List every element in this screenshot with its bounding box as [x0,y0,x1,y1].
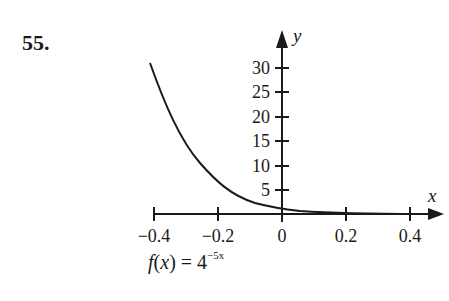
y-tick-label: 30 [252,58,270,78]
y-tick-label: 20 [252,107,270,127]
x-tick-label: 0.4 [399,226,422,246]
y-tick-label: 25 [252,82,270,102]
x-axis-label: x [427,185,437,206]
x-tick-label: 0 [278,226,287,246]
y-tick-label: 10 [252,156,270,176]
function-graph: −0.4 −0.2 0 0.2 0.4 5 10 15 20 25 30 x y [0,0,449,301]
x-tick-label: 0.2 [335,226,358,246]
function-label: f(x) = 4−5x [148,251,224,274]
x-tick-label: −0.4 [138,226,171,246]
function-variable: x [160,251,169,273]
y-tick-label: 5 [261,180,270,200]
function-curve [150,63,420,214]
x-tick-label: −0.2 [202,226,235,246]
y-axis-label: y [291,25,302,46]
y-tick-label: 15 [252,131,270,151]
function-exponent: −5x [207,249,224,261]
function-base: 4 [197,251,207,273]
y-axis-arrow-icon [276,30,288,48]
function-name: f [148,251,154,273]
x-axis-arrow-icon [428,208,444,220]
